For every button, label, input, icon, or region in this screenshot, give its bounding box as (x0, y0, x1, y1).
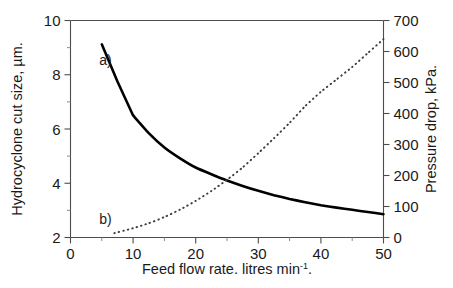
axis-titles: Feed flow rate. litres min-1.Hydrocyclon… (9, 42, 439, 277)
y-right-tick-label: 100 (394, 198, 419, 215)
x-tick-label: 10 (125, 245, 142, 262)
x-axis-title: Feed flow rate. litres min-1. (142, 261, 312, 277)
y-right-tick-label: 600 (394, 43, 419, 60)
y-right-tick-label: 500 (394, 74, 419, 91)
y-right-tick-label: 700 (394, 12, 419, 29)
y-right-tick-label: 200 (394, 167, 419, 184)
y-left-tick-label: 10 (44, 12, 61, 29)
y-axis-right-title: Pressure drop, kPa. (423, 65, 439, 193)
y-right-tick-label: 300 (394, 136, 419, 153)
y-left-tick-label: 8 (52, 66, 60, 83)
x-tick-label: 40 (313, 245, 330, 262)
series-curve-a (102, 44, 384, 214)
chart-canvas: 01020304050 246810 010020030040050060070… (0, 0, 453, 288)
data-series (102, 39, 384, 233)
y-axis-left-tick-labels: 246810 (44, 12, 61, 246)
y-left-tick-label: 4 (52, 175, 60, 192)
y-right-tick-label: 400 (394, 105, 419, 122)
chart-figure: 01020304050 246810 010020030040050060070… (0, 0, 453, 288)
series-annotation-b: b) (99, 211, 111, 227)
x-tick-label: 50 (375, 245, 392, 262)
y-left-tick-label: 2 (52, 229, 60, 246)
series-curve-b (114, 39, 383, 233)
series-annotations: a)b) (99, 52, 111, 227)
x-axis-tick-labels: 01020304050 (66, 245, 392, 262)
plot-frame (71, 21, 384, 238)
y-axis-right-tick-labels: 0100200300400500600700 (394, 12, 419, 246)
x-tick-label: 30 (250, 245, 267, 262)
y-right-tick-label: 0 (394, 229, 402, 246)
axis-ticks (65, 21, 390, 244)
series-annotation-a: a) (99, 52, 111, 68)
y-left-tick-label: 6 (52, 121, 60, 138)
x-tick-label: 20 (187, 245, 204, 262)
y-axis-left-title: Hydrocyclone cut size, µm. (9, 42, 25, 216)
x-tick-label: 0 (66, 245, 74, 262)
